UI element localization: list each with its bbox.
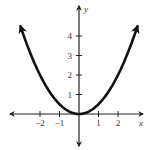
x-tick-label: −2 (35, 118, 45, 128)
x-tick-label: 1 (96, 118, 101, 128)
x-tick-label: 2 (116, 118, 121, 128)
y-tick-label: 1 (68, 90, 73, 100)
y-axis-label: y (83, 4, 88, 14)
y-tick-label: 4 (68, 31, 73, 41)
y-tick-label: 3 (68, 51, 73, 61)
parabola-graph: −2−112 1234 y x (0, 0, 150, 150)
y-ticks: 1234 (68, 31, 83, 100)
x-tick-label: −1 (55, 118, 65, 128)
x-axis-label: x (138, 118, 143, 128)
y-tick-label: 2 (68, 70, 73, 80)
